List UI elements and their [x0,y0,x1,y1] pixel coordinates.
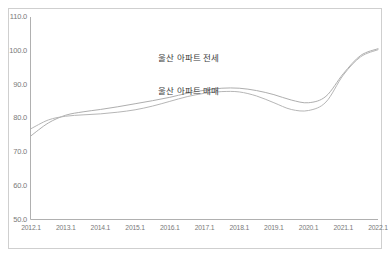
x-tick-label: 2020.1 [299,224,319,231]
chart-container: 50.060.070.080.090.0100.0110.0 2012.1201… [0,0,391,257]
x-tick-label: 2022.1 [368,224,388,231]
x-tick-label: 2021.1 [334,224,354,231]
series-label-jeonse: 울산 아파트 전세 [158,51,219,63]
x-tick-label: 2014.1 [91,224,111,231]
chart-plot-area [0,0,391,257]
x-tick-label: 2016.1 [160,224,180,231]
y-tick-label: 110.0 [5,12,27,21]
y-tick-label: 100.0 [5,46,27,55]
y-tick-label: 90.0 [5,80,27,89]
y-tick-label: 50.0 [5,215,27,224]
x-tick-label: 2017.1 [195,224,215,231]
x-tick-label: 2018.1 [229,224,249,231]
y-tick-label: 70.0 [5,147,27,156]
y-tick-label: 80.0 [5,113,27,122]
x-tick-label: 2013.1 [56,224,76,231]
series-label-maemae: 울산 아파트 매매 [158,84,219,96]
x-tick-label: 2015.1 [125,224,145,231]
x-tick-label: 2012.1 [21,224,41,231]
x-tick-label: 2019.1 [264,224,284,231]
y-tick-label: 60.0 [5,181,27,190]
